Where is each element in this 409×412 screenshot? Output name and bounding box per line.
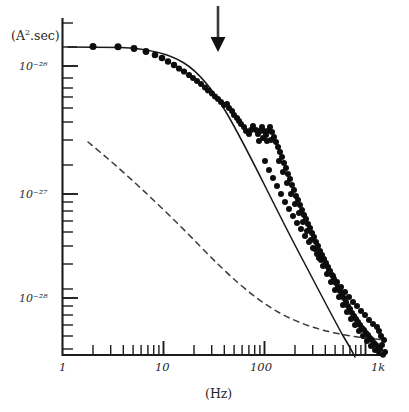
x-tick-label-100: 100	[250, 360, 272, 374]
x-tick-label-1k: 1k	[371, 360, 385, 374]
y-axis-unit-label: (A2.sec)	[11, 28, 60, 43]
y-tick-label-1e-28: 10⁻²⁸	[19, 292, 48, 305]
data-points	[90, 43, 389, 358]
axis-frame	[62, 18, 386, 356]
x-tick-label-10: 10	[155, 360, 170, 374]
x-tick-label-1: 1	[59, 360, 66, 374]
background-reference-dashed-curve	[88, 142, 386, 340]
noise-spectrum-figure: (A2.sec) (Hz) 10⁻²⁶ 10⁻²⁷ 10⁻²⁸ 1 10 100…	[0, 0, 409, 412]
y-tick-label-1e-27: 10⁻²⁷	[19, 188, 48, 201]
y-tick-label-1e-26: 10⁻²⁶	[19, 60, 48, 73]
x-axis-unit-label: (Hz)	[205, 386, 232, 401]
plot-svg	[0, 0, 409, 412]
y-axis-ticks	[63, 23, 79, 349]
x-axis-ticks	[93, 341, 366, 355]
corner-frequency-arrow	[211, 6, 226, 52]
